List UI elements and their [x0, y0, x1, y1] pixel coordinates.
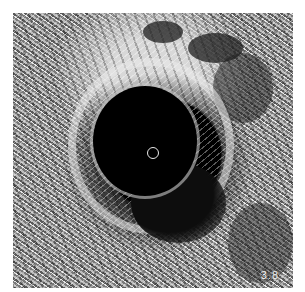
depth-label: 3.8 [261, 269, 279, 281]
vessel-lumen [93, 86, 197, 196]
ivus-image: 3.8 [13, 13, 293, 288]
dark-region-top [143, 21, 183, 43]
catheter-ring-icon [147, 147, 159, 159]
